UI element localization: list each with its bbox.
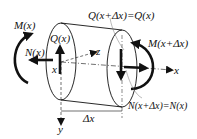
moment-right-label: M(x+Δx): [147, 37, 188, 50]
moment-left-label: M(x): [13, 19, 36, 32]
normal-right-leader: [126, 70, 142, 98]
shear-right-label: Q(x+Δx)=Q(x): [88, 9, 155, 22]
diagram-svg: M(x) N(x) Q(x) Q(x+Δx)=Q(x) M(x+Δx) N(x+…: [0, 0, 197, 139]
bottom-edge: [61, 100, 122, 107]
x-axis: [61, 62, 172, 70]
length-label: Δx: [82, 112, 94, 124]
shear-left-label: Q(x): [50, 32, 70, 45]
leader-lines: [110, 18, 142, 98]
z-axis: [61, 52, 96, 62]
y-axis-label: y: [57, 123, 63, 135]
normal-left-label: N(x): [24, 46, 45, 59]
beam-diagram: M(x) N(x) Q(x) Q(x+Δx)=Q(x) M(x+Δx) N(x+…: [0, 0, 197, 139]
x-origin-label: x: [51, 63, 57, 75]
normal-right-label: N(x+Δx)=N(x): [127, 100, 188, 112]
moment-right-arrow: [131, 43, 153, 89]
normal-right-arrow: [124, 67, 146, 68]
moment-left-arrow: [15, 34, 31, 83]
x-axis-label: x: [173, 64, 179, 76]
z-axis-label: z: [95, 45, 101, 57]
